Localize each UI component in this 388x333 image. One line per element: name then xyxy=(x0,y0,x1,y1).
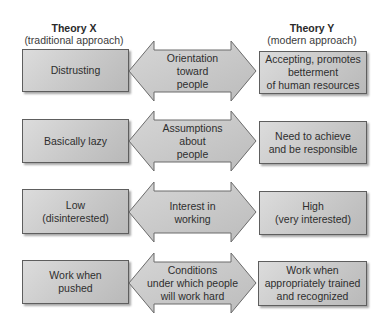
theory-y-box: Need to achieve and be responsible xyxy=(259,121,367,164)
dimension-label: Conditions under which people will work … xyxy=(129,252,256,315)
theory-y-box: Accepting, promotes betterment of human … xyxy=(259,51,367,94)
theory-y-box: Work when appropriately trained and reco… xyxy=(258,261,367,306)
dimension-label: Interest in working xyxy=(129,181,256,244)
theory-x-box: Low (disinterested) xyxy=(22,189,129,234)
theory-x-box: Distrusting xyxy=(22,49,129,92)
theory-x-title: Theory X xyxy=(14,22,134,34)
double-arrow: Conditions under which people will work … xyxy=(129,252,256,315)
double-arrow: Assumptions about people xyxy=(129,110,256,173)
double-arrow: Interest in working xyxy=(129,181,256,244)
theory-y-box: High (very interested) xyxy=(259,191,367,235)
dimension-label: Assumptions about people xyxy=(129,110,256,173)
theory-y-title: Theory Y xyxy=(254,22,370,34)
dimension-label: Orientation toward people xyxy=(129,40,256,102)
theory-x-subtitle: (traditional approach) xyxy=(14,34,134,46)
theory-y-header: Theory Y (modern approach) xyxy=(254,22,370,46)
theory-x-box: Work when pushed xyxy=(22,260,129,304)
double-arrow: Orientation toward people xyxy=(129,40,256,102)
theory-x-header: Theory X (traditional approach) xyxy=(14,22,134,46)
theory-x-box: Basically lazy xyxy=(22,119,129,163)
theory-y-subtitle: (modern approach) xyxy=(254,34,370,46)
